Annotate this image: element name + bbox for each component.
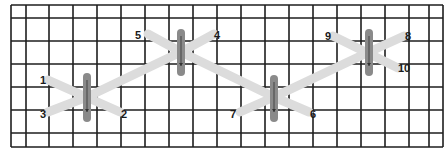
point-label: 2 bbox=[121, 108, 127, 120]
point-label: 9 bbox=[325, 30, 331, 42]
point-label: 6 bbox=[310, 108, 316, 120]
point-label: 5 bbox=[135, 29, 141, 41]
point-label: 8 bbox=[405, 30, 411, 42]
stitch-diagram: 12345678910 bbox=[0, 0, 444, 158]
point-label: 4 bbox=[214, 29, 221, 41]
thread-segment bbox=[369, 36, 404, 52]
point-label: 7 bbox=[230, 108, 236, 120]
thread-segment bbox=[181, 34, 214, 52]
thread-segment bbox=[181, 52, 274, 97]
point-label: 10 bbox=[398, 62, 410, 74]
point-label: 1 bbox=[40, 74, 46, 86]
point-label: 3 bbox=[40, 108, 46, 120]
thread-segment bbox=[87, 52, 181, 97]
thread-paths bbox=[48, 34, 404, 112]
thread-segment bbox=[148, 34, 181, 52]
